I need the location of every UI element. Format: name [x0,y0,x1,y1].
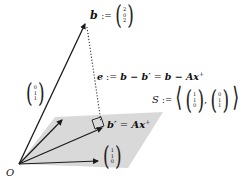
def-symbol: := [106,71,117,82]
label-vector-b: b := ( 2 0 2 ) [90,7,134,24]
Ax-symbol: Ax [131,119,145,130]
label-error-vector: e := b − b′ = b − Ax+ [97,71,204,82]
def-symbol: := [101,11,112,21]
label-b-prime: b′ = Ax+ [107,119,150,130]
matrix-s-v1: ( 1 1 0 ) [185,92,204,109]
label-basis1: ( 1 1 0 ) [103,148,122,165]
label-subspace: S := ⟨ ( 1 1 0 ) , ( 0 1 1 ) ⟩ [152,88,239,109]
matrix-s-v2: ( 0 1 1 ) [210,92,229,109]
v1-comp-3: 0 [193,103,196,109]
comma: , [204,94,207,105]
span-close: ⟩ [232,84,239,111]
S-symbol: S [152,94,159,105]
label-origin: O [6,168,14,178]
e-symbol: e [97,71,103,82]
plus-superscript: + [199,70,204,77]
b-comp-3: 2 [123,18,126,24]
eq-symbol: = [120,119,128,130]
def-symbol: := [162,95,172,105]
label-basis2: ( 0 1 1 ) [26,85,45,102]
b-prime-symbol: b′ [107,119,117,130]
span-open: ⟨ [175,84,182,111]
b-symbol: b [90,9,98,22]
v2-comp-3: 1 [218,103,221,109]
eq-symbol: = [154,71,162,82]
plus-superscript: + [145,118,150,125]
basis1-comp-3: 0 [111,159,114,165]
matrix-b: ( 2 0 2 ) [115,7,134,24]
basis2-comp-3: 1 [34,96,37,102]
error-expr-1: b − b′ [120,71,150,82]
